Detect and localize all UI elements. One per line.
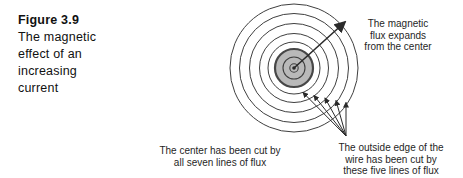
fan-arrow (314, 96, 346, 137)
annotation-flux-expands: The magnetic flux expands from the cente… (350, 18, 446, 53)
annotation-center-cut: The center has been cut by all seven lin… (148, 145, 292, 168)
annotation-line: these five lines of flux (322, 165, 460, 177)
annotation-line: all seven lines of flux (148, 157, 292, 169)
annotation-line: The outside edge of the (322, 142, 460, 154)
annotation-line: The center has been cut by (148, 145, 292, 157)
annotation-line: wire has been cut by (322, 154, 460, 166)
annotation-outside-edge: The outside edge of the wire has been cu… (322, 142, 460, 177)
annotation-line: from the center (350, 41, 446, 53)
annotation-line: The magnetic (350, 18, 446, 30)
figure-page: Figure 3.9 The magnetic effect of an inc… (0, 0, 463, 178)
annotation-line: flux expands (350, 30, 446, 42)
